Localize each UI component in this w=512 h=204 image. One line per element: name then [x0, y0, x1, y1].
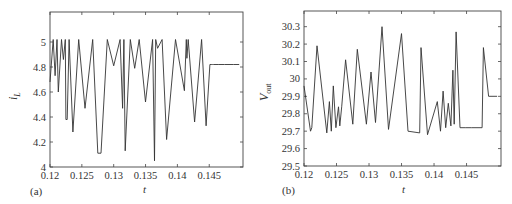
- y-tick-label: 30.2: [282, 39, 300, 50]
- figure: 0.120.1250.130.1350.140.14544.24.44.64.8…: [0, 0, 512, 204]
- x-tick-label: 0.13: [360, 169, 378, 180]
- panel-b-ylabel: Vout: [257, 83, 273, 101]
- y-tick-label: 29.5: [282, 161, 300, 172]
- y-tick-label: 4: [41, 162, 47, 173]
- ylabel-main: V: [257, 94, 271, 101]
- ylabel-sub: out: [264, 83, 273, 93]
- y-tick-label: 4.2: [33, 137, 46, 148]
- x-tick-label: 0.125: [70, 170, 94, 181]
- series-line: [304, 27, 497, 135]
- x-tick-label: 0.145: [455, 169, 479, 180]
- ylabel-sub: L: [13, 92, 22, 96]
- y-tick-label: 29.7: [282, 126, 300, 137]
- series-line: [50, 40, 239, 161]
- x-tick-label: 0.14: [425, 169, 444, 180]
- panel-a-ylabel: iL: [6, 92, 22, 100]
- chart-panel-b: 0.120.1250.130.1350.140.14529.529.629.72…: [282, 11, 501, 180]
- y-tick-label: 4.6: [33, 87, 46, 98]
- panel-a-label: (a): [30, 185, 42, 197]
- x-tick-label: 0.145: [197, 170, 221, 181]
- chart-panel-a: 0.120.1250.130.1350.140.14544.24.44.64.8…: [33, 12, 243, 181]
- panel-b-xlabel: t: [402, 183, 405, 195]
- y-tick-label: 30: [290, 73, 301, 84]
- y-tick-label: 5: [41, 37, 46, 48]
- panel-b-label: (b): [282, 184, 295, 196]
- ylabel-main: i: [6, 97, 20, 100]
- x-tick-label: 0.135: [390, 169, 414, 180]
- y-tick-label: 30.1: [282, 56, 300, 67]
- x-tick-label: 0.14: [168, 170, 187, 181]
- y-tick-label: 29.6: [282, 143, 300, 154]
- y-tick-label: 4.4: [33, 112, 47, 123]
- y-tick-label: 29.8: [282, 108, 300, 119]
- y-tick-label: 30.3: [282, 21, 300, 32]
- x-tick-label: 0.13: [105, 170, 123, 181]
- x-tick-label: 0.135: [134, 170, 158, 181]
- x-tick-label: 0.125: [325, 169, 349, 180]
- panel-a-xlabel: t: [143, 183, 146, 195]
- y-tick-label: 29.9: [282, 91, 300, 102]
- y-tick-label: 4.8: [33, 62, 46, 73]
